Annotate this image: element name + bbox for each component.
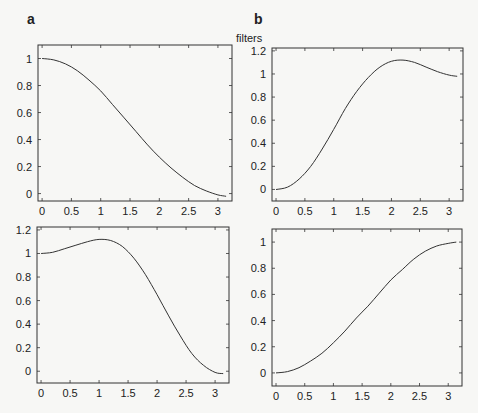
y-tick-label: 0.2 (251, 341, 266, 353)
x-tick-label: 3 (212, 387, 218, 399)
x-tick-label: 2.5 (412, 390, 427, 402)
x-tick-label: 2.5 (181, 205, 196, 217)
y-tick-label: 0.6 (251, 288, 266, 300)
plot-frame (38, 45, 232, 201)
x-tick-label: 1 (96, 387, 102, 399)
x-tick-label: 0.5 (64, 205, 79, 217)
x-tick-label: 3 (215, 205, 221, 217)
series-line (41, 239, 223, 373)
chart-b-top: 00.511.522.5300.20.40.60.811.2 (251, 45, 463, 217)
y-tick-label: 0.4 (251, 137, 266, 149)
x-tick-label: 1.5 (122, 205, 137, 217)
chart-a-bottom: 00.511.522.5300.20.40.60.811.2 (16, 224, 229, 399)
x-tick-label: 0.5 (297, 390, 312, 402)
y-tick-label: 0.4 (251, 315, 266, 327)
x-tick-label: 2.5 (178, 387, 193, 399)
series-line (42, 59, 226, 197)
x-tick-label: 0.5 (62, 387, 77, 399)
y-tick-label: 0.6 (17, 107, 32, 119)
y-tick-label: 0.4 (16, 318, 31, 330)
y-tick-label: 0.2 (251, 160, 266, 172)
x-tick-label: 1 (98, 205, 104, 217)
x-tick-label: 2.5 (413, 205, 428, 217)
x-tick-label: 1.5 (120, 387, 135, 399)
x-tick-label: 0.5 (297, 205, 312, 217)
y-tick-label: 0.8 (251, 262, 266, 274)
y-tick-label: 1 (26, 53, 32, 65)
x-tick-label: 2 (156, 205, 162, 217)
x-tick-label: 1 (331, 205, 337, 217)
x-tick-label: 2 (388, 390, 394, 402)
x-tick-label: 2 (388, 205, 394, 217)
y-tick-label: 0.6 (16, 295, 31, 307)
charts-canvas: 00.511.522.5300.20.40.60.8100.511.522.53… (0, 0, 478, 413)
x-tick-label: 0 (273, 205, 279, 217)
chart-b-bottom: 00.511.522.5300.20.40.60.81 (251, 229, 462, 402)
y-tick-label: 0 (26, 188, 32, 200)
y-tick-label: 0.2 (17, 161, 32, 173)
x-tick-label: 0 (273, 390, 279, 402)
x-tick-label: 2 (154, 387, 160, 399)
y-tick-label: 1.2 (251, 45, 266, 57)
x-tick-label: 0 (39, 205, 45, 217)
x-tick-label: 1.5 (355, 205, 370, 217)
series-line (276, 242, 456, 373)
chart-a-top: 00.511.522.5300.20.40.60.81 (17, 45, 232, 217)
y-tick-label: 1 (260, 236, 266, 248)
x-tick-label: 1 (330, 390, 336, 402)
plot-frame (37, 227, 229, 383)
y-tick-label: 0.8 (251, 91, 266, 103)
y-tick-label: 1 (260, 68, 266, 80)
y-tick-label: 0.8 (17, 80, 32, 92)
y-tick-label: 1 (25, 247, 31, 259)
x-tick-label: 3 (445, 390, 451, 402)
y-tick-label: 0 (25, 365, 31, 377)
y-tick-label: 0.4 (17, 134, 32, 146)
series-line (276, 60, 457, 189)
y-tick-label: 0 (260, 183, 266, 195)
x-tick-label: 3 (446, 205, 452, 217)
y-tick-label: 0.8 (16, 271, 31, 283)
x-tick-label: 0 (38, 387, 44, 399)
x-tick-label: 1.5 (354, 390, 369, 402)
y-tick-label: 0.2 (16, 342, 31, 354)
y-tick-label: 1.2 (16, 224, 31, 236)
y-tick-label: 0 (260, 367, 266, 379)
y-tick-label: 0.6 (251, 114, 266, 126)
